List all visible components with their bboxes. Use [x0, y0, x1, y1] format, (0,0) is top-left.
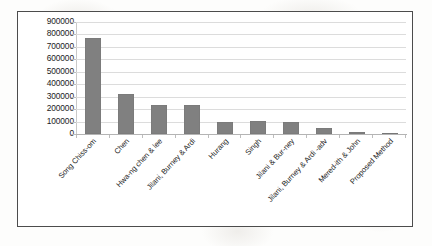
y-axis-tick-label: 600000 [22, 54, 74, 62]
chart-frame: 9000008000007000006000005000004000003000… [17, 11, 413, 227]
bar [184, 105, 200, 134]
y-axis: 9000008000007000006000005000004000003000… [22, 17, 74, 140]
x-axis-category-label: Hurang [208, 138, 231, 162]
bar-slot [241, 22, 274, 134]
y-axis-tick-label: 500000 [22, 67, 74, 75]
x-axis-category-label: Song Chiss-om [58, 138, 99, 181]
bar-slot [109, 22, 142, 134]
y-axis-tickmark [71, 22, 76, 23]
y-axis-tick-label: 100000 [22, 117, 74, 125]
bar-series [76, 22, 406, 134]
bar-slot [274, 22, 307, 134]
bar-slot [373, 22, 406, 134]
x-axis-category-label: Singh [244, 138, 263, 158]
bar-slot [307, 22, 340, 134]
bar [250, 121, 266, 134]
y-axis-tick-label: 900000 [22, 17, 74, 25]
y-axis-tickmark [71, 34, 76, 35]
bar-slot [208, 22, 241, 134]
y-axis-tick-label: 0 [22, 129, 74, 137]
y-axis-tickmark [71, 134, 76, 135]
bar [283, 122, 299, 134]
y-axis-tick-label: 200000 [22, 104, 74, 112]
y-axis-tick-label: 400000 [22, 79, 74, 87]
y-axis-tickmark [71, 84, 76, 85]
x-axis-category-label-text: Jilani, Burney & Ardi -adv [266, 137, 329, 204]
x-axis-category-label: Jilani, Burney & Ardi -adv [267, 138, 330, 205]
x-axis-category-label-text: Chen [113, 137, 131, 156]
x-axis-labels: Song Chiss-omChenHwa-ng chen & leeJilani… [76, 138, 406, 224]
x-axis-category-label-text: Song Chiss-om [57, 137, 98, 180]
bar [118, 94, 134, 134]
y-axis-tick-label: 700000 [22, 42, 74, 50]
bar-slot [142, 22, 175, 134]
y-axis-tickmark [71, 59, 76, 60]
bar-slot [175, 22, 208, 134]
bar [151, 105, 167, 134]
scanned-page-background: 9000008000007000006000005000004000003000… [0, 0, 432, 246]
chart-plot-wrapper: 9000008000007000006000005000004000003000… [18, 12, 412, 226]
bar-slot [76, 22, 109, 134]
y-axis-tick-label: 300000 [22, 92, 74, 100]
x-axis-category-label-text: Hurang [207, 137, 230, 161]
y-axis-tick-label: 800000 [22, 29, 74, 37]
y-axis-tickmark [71, 97, 76, 98]
bar [85, 38, 101, 134]
y-axis-tickmark [71, 47, 76, 48]
x-axis-category-label-text: Singh [244, 137, 263, 157]
bar-slot [340, 22, 373, 134]
y-axis-tickmark [71, 72, 76, 73]
y-axis-tickmark [71, 122, 76, 123]
bar [217, 122, 233, 134]
x-axis-category-label: Chen [113, 138, 131, 157]
plot-area [76, 22, 406, 134]
y-axis-tickmark [71, 109, 76, 110]
